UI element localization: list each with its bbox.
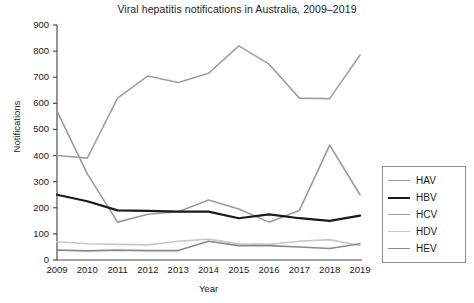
series-line-hcv [57,46,360,158]
legend-item-hav[interactable]: HAV [383,172,465,189]
series-lines [57,46,360,251]
y-axis-tick-label: 200 [15,202,49,213]
y-axis-tick-label: 800 [15,45,49,56]
y-axis-tick-label: 900 [15,19,49,30]
legend-item-hbv[interactable]: HBV [383,189,465,206]
legend-item-label: HDV [416,227,437,237]
legend-swatch-icon [388,180,410,181]
x-axis-tick-label: 2019 [340,264,380,275]
legend-swatch-icon [388,231,410,232]
legend-swatch-icon [388,248,410,249]
series-line-hev [57,241,360,251]
y-axis-tick-label: 500 [15,123,49,134]
legend-item-label: HCV [416,210,437,220]
legend-item-label: HBV [416,193,437,203]
legend-item-hdv[interactable]: HDV [383,223,465,240]
y-axis-tick-label: 100 [15,228,49,239]
y-axis-tick-label: 300 [15,176,49,187]
chart-legend: HAVHBVHCVHDVHEV [382,166,466,263]
legend-item-hcv[interactable]: HCV [383,206,465,223]
axis-lines [57,25,362,260]
chart-figure: Viral hepatitis notifications in Austral… [0,0,474,303]
legend-swatch-icon [388,214,410,215]
y-axis-tick-label: 400 [15,150,49,161]
legend-swatch-icon [388,197,410,199]
legend-item-hev[interactable]: HEV [383,240,465,257]
series-line-hdv [57,239,360,246]
y-axis-tick-label: 600 [15,97,49,108]
legend-item-label: HEV [416,244,437,254]
legend-item-label: HAV [416,176,436,186]
y-axis-tick-label: 700 [15,71,49,82]
